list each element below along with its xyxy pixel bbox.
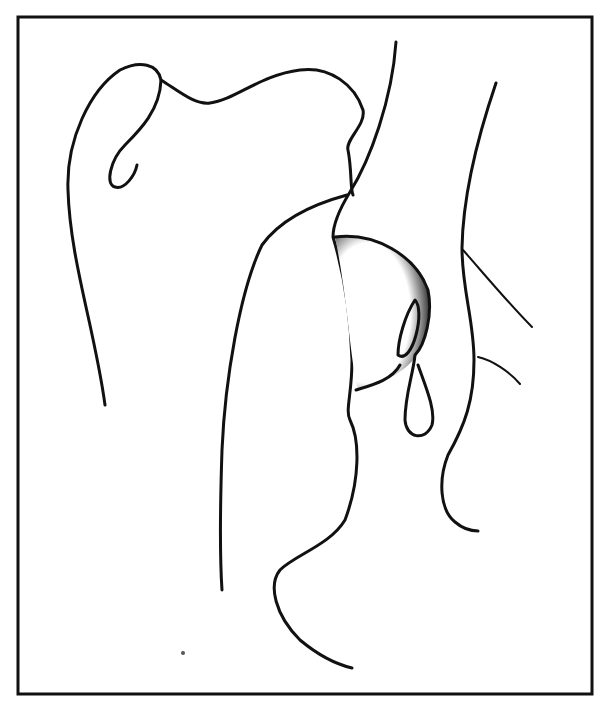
left-tooth-inner-fold	[110, 80, 161, 187]
right-branch-upper	[463, 250, 532, 327]
right-branch-lower	[478, 357, 520, 384]
figure-frame	[18, 17, 592, 694]
tooth-illustration	[0, 0, 606, 706]
middle-root-outline	[221, 195, 348, 590]
ink-speck	[181, 651, 185, 655]
left-tooth-outline	[68, 65, 363, 405]
right-gum-outline	[442, 83, 496, 531]
